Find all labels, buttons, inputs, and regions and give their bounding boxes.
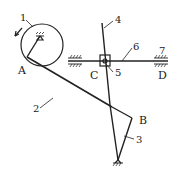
label-2: 2 [33, 103, 39, 114]
rod-4 [102, 23, 110, 105]
label-5: 5 [115, 67, 121, 78]
ground-pivot-icon [36, 36, 44, 40]
disc-1 [21, 24, 63, 66]
label-6: 6 [133, 41, 139, 52]
label-a: A [17, 64, 27, 77]
label-1: 1 [20, 12, 26, 23]
ground-pivot-bottom-icon [113, 160, 123, 163]
label-4: 4 [115, 14, 121, 25]
label-b: B [139, 114, 147, 127]
label-7: 7 [159, 45, 165, 56]
label-d: D [158, 69, 167, 82]
mechanism-diagram: A B C D 1 2 3 4 5 6 7 [0, 0, 180, 175]
link-3 [118, 118, 132, 160]
label-3: 3 [136, 134, 142, 145]
link-vertical [110, 105, 118, 160]
label-c: C [90, 69, 98, 82]
link-2 [27, 57, 112, 107]
